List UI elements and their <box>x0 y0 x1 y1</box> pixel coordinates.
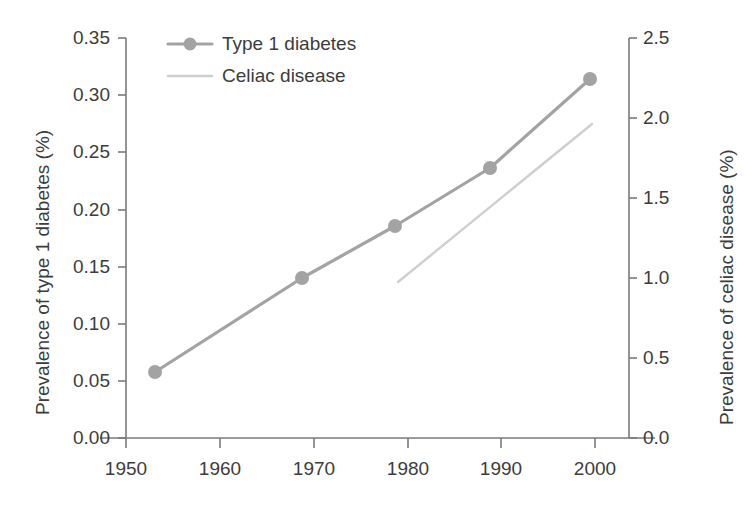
xtick-label: 2000 <box>555 458 635 480</box>
legend-label-celiac-disease: Celiac disease <box>222 65 346 87</box>
ytick-label-right: 2.0 <box>643 107 669 129</box>
ytick-label-left: 0.00 <box>48 427 110 449</box>
xtick-label: 1970 <box>274 458 354 480</box>
ytick-label-left: 0.25 <box>48 141 110 163</box>
xtick-label: 1980 <box>368 458 448 480</box>
ytick-label-left: 0.30 <box>48 84 110 106</box>
xtick-label: 1990 <box>461 458 541 480</box>
ytick-label-right: 1.0 <box>643 267 669 289</box>
ytick-label-right: 1.5 <box>643 187 669 209</box>
data-point-marker <box>583 72 597 86</box>
ytick-label-right: 2.5 <box>643 27 669 49</box>
y-axis-title-left: Prevalence of type 1 diabetes (%) <box>32 130 54 415</box>
ytick-label-left: 0.20 <box>48 199 110 221</box>
ytick-label-left: 0.10 <box>48 313 110 335</box>
data-point-marker <box>148 365 162 379</box>
x-axis-ticks <box>126 438 595 448</box>
series-line-celiac-disease <box>398 124 592 282</box>
xtick-label: 1960 <box>180 458 260 480</box>
legend-swatch-type-1-diabetes <box>168 38 212 51</box>
y-axis-title-right: Prevalence of celiac disease (%) <box>716 149 738 425</box>
chart-canvas <box>0 0 755 519</box>
xtick-label: 1950 <box>86 458 166 480</box>
ytick-label-left: 0.05 <box>48 370 110 392</box>
ytick-label-right: 0.5 <box>643 347 669 369</box>
ytick-label-right: 0.0 <box>643 427 669 449</box>
legend-label-type-1-diabetes: Type 1 diabetes <box>222 33 356 55</box>
right-axis-ticks <box>629 38 637 438</box>
chart-figure: 0.35 0.30 0.25 0.20 0.15 0.10 0.05 0.00 … <box>0 0 755 519</box>
series-line-type-1-diabetes <box>155 79 590 372</box>
ytick-label-left: 0.35 <box>48 27 110 49</box>
data-point-marker <box>483 161 497 175</box>
ytick-label-left: 0.15 <box>48 256 110 278</box>
data-point-marker <box>295 271 309 285</box>
left-axis-ticks <box>118 38 126 438</box>
data-point-marker <box>388 219 402 233</box>
